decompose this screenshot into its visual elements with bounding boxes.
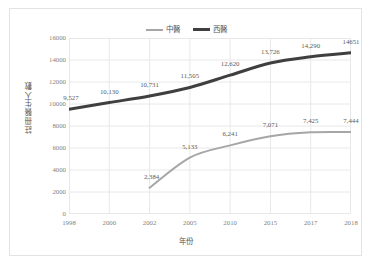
x-axis-tick-label: 2000 [102, 220, 116, 227]
x-axis-title: 年份 [10, 235, 363, 246]
x-axis-tick-label: 2010 [223, 220, 237, 227]
y-axis-tick-label: 12000 [36, 79, 66, 86]
y-axis-tick-label: 6000 [36, 145, 66, 152]
data-label: 2,384 [144, 173, 159, 180]
y-axis-tick-labels: 0200040006000800010000120001400016000 [36, 38, 66, 214]
data-label: 14651 [343, 38, 360, 45]
data-label: 6,241 [222, 131, 237, 138]
series-line-western [69, 53, 351, 109]
y-axis-tick-label: 8000 [36, 123, 66, 130]
y-axis-tick-label: 16000 [36, 35, 66, 42]
data-label: 7,444 [343, 118, 358, 125]
legend-entry-western[interactable]: 西醫 [193, 26, 227, 34]
x-axis-tick-label: 2017 [304, 220, 318, 227]
x-axis-tick-label: 2015 [264, 220, 278, 227]
legend-label-tcm: 中醫 [166, 26, 180, 34]
legend-label-western: 西醫 [213, 26, 227, 34]
legend-line-swatch-icon [193, 28, 210, 31]
legend-entry-tcm[interactable]: 中醫 [146, 26, 180, 34]
x-axis-tick-label: 2018 [344, 220, 358, 227]
data-label: 10,130 [100, 88, 119, 95]
data-label: 7,071 [263, 122, 278, 129]
data-label: 7,425 [303, 118, 318, 125]
plot-area: 2,3845,1336,2417,0717,4257,4449,52710,13… [69, 38, 351, 214]
x-axis-tick-label: 2005 [183, 220, 197, 227]
y-axis-title: 註冊醫生人數 [23, 81, 35, 134]
x-axis-tick-label: 1998 [62, 220, 76, 227]
x-axis-tick-label: 2002 [143, 220, 157, 227]
series-line-tcm [150, 132, 351, 188]
plot-svg [69, 38, 351, 214]
x-axis-tick-labels: 19982000200220052010201520172018 [69, 220, 351, 231]
data-label: 13,726 [261, 49, 280, 56]
y-axis-tick-label: 10000 [36, 101, 66, 108]
legend-line-swatch-icon [146, 29, 163, 31]
data-label: 11,505 [181, 73, 199, 80]
data-label: 9,527 [63, 95, 78, 102]
y-axis-tick-label: 14000 [36, 57, 66, 64]
data-label: 10,731 [140, 82, 159, 89]
data-label: 5,133 [182, 143, 197, 150]
data-label: 14,290 [301, 42, 320, 49]
y-axis-tick-label: 0 [36, 211, 66, 218]
y-axis-tick-label: 4000 [36, 167, 66, 174]
data-label: 12,620 [221, 61, 240, 68]
y-axis-tick-label: 2000 [36, 189, 66, 196]
chart-figure: 中醫 西醫 註冊醫生人數 020004000600080001000012000… [9, 8, 362, 256]
